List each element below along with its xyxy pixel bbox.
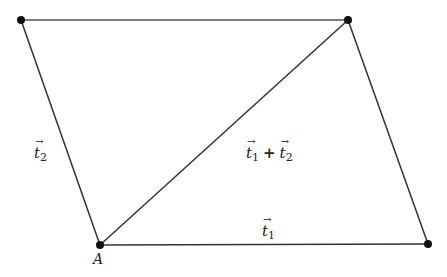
point-a [96,241,104,249]
label-point-a: A [93,252,103,266]
vector-arrow-icon: t [246,146,252,161]
edge-right [348,20,428,244]
vector-arrow-icon: t [262,224,268,239]
label-t1-plus-t2: t1+t2 [246,146,293,163]
label-t2: t2 [34,146,47,163]
point-b [424,240,432,248]
point-c [344,16,352,24]
vector-arrow-icon: t [34,146,40,161]
edge-diagonal-sum [100,20,348,245]
diagram-svg [0,0,447,277]
edge-t1 [100,244,428,245]
label-t1: t1 [262,224,275,241]
parallelogram-diagram: t2 t1+t2 t1 A [0,0,447,277]
vector-arrow-icon: t [280,146,286,161]
edge-t2 [21,20,100,245]
point-d [17,16,25,24]
